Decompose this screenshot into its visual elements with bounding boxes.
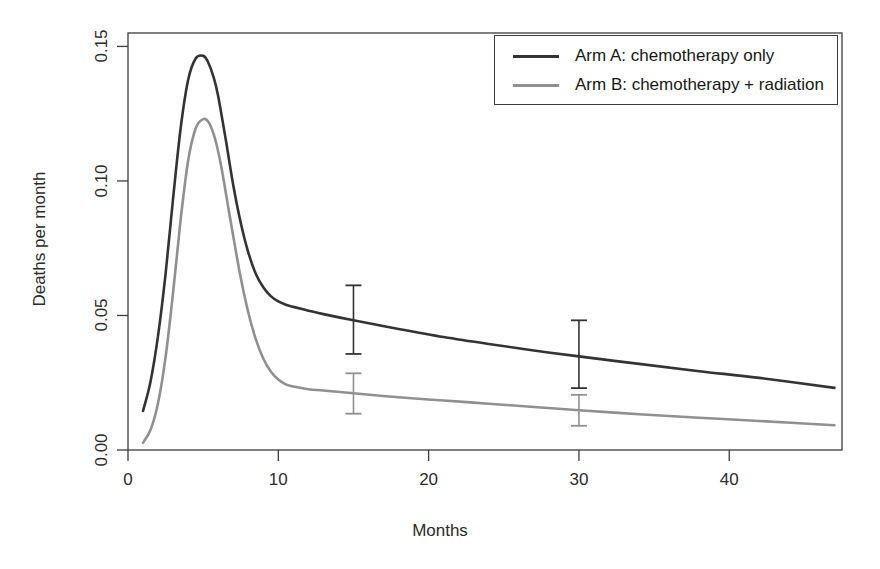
y-tick-label: 0.10	[92, 151, 112, 211]
y-tick-label: 0.05	[92, 285, 112, 345]
x-tick-label: 0	[98, 470, 158, 490]
chart-figure: Deaths per month Months 0.000.050.100.15…	[0, 0, 880, 569]
x-axis-label: Months	[0, 521, 880, 541]
x-tick-label: 10	[248, 470, 308, 490]
legend-swatch-arm-b	[513, 84, 559, 87]
legend-item-arm-a: Arm A: chemotherapy only	[495, 41, 837, 71]
chart-legend: Arm A: chemotherapy only Arm B: chemothe…	[494, 35, 838, 105]
series-line-arm-b	[143, 119, 834, 443]
x-tick-label: 30	[549, 470, 609, 490]
x-tick-label: 20	[399, 470, 459, 490]
series-line-arm-a	[143, 55, 834, 411]
legend-swatch-arm-a	[513, 55, 559, 58]
legend-item-arm-b: Arm B: chemotherapy + radiation	[495, 70, 837, 100]
legend-label-arm-a: Arm A: chemotherapy only	[575, 46, 774, 66]
x-tick-label: 40	[699, 470, 759, 490]
error-bar	[571, 320, 587, 388]
y-axis-label: Deaths per month	[30, 139, 50, 339]
y-tick-label: 0.15	[92, 16, 112, 76]
legend-label-arm-b: Arm B: chemotherapy + radiation	[575, 75, 824, 95]
